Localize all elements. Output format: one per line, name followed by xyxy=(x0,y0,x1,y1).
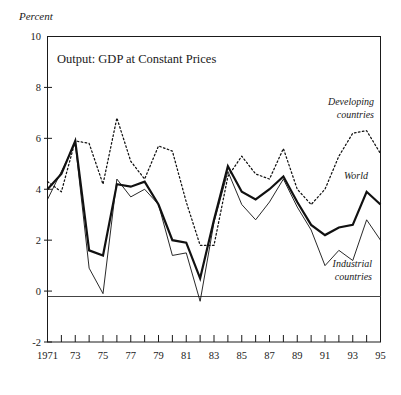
annotation-industrial-countries-line2: countries xyxy=(335,271,372,282)
annotation-world: World xyxy=(344,170,369,181)
plot-title: Output: GDP at Constant Prices xyxy=(57,52,216,66)
x-tick-label: 81 xyxy=(181,350,192,361)
x-tick-label: 1971 xyxy=(37,350,58,361)
x-tick-label: 91 xyxy=(320,350,331,361)
x-tick-label: 89 xyxy=(292,350,303,361)
y-tick-label: 0 xyxy=(36,286,41,297)
x-axis-tick-marks xyxy=(48,335,381,342)
gdp-line-chart: Percent 1086420-2 1971737577798183858789… xyxy=(0,0,401,395)
x-tick-label: 87 xyxy=(264,350,275,361)
x-tick-label: 85 xyxy=(237,350,248,361)
x-tick-label: 95 xyxy=(375,350,386,361)
x-tick-label: 77 xyxy=(126,350,137,361)
y-tick-label: 2 xyxy=(36,235,41,246)
y-tick-label: 4 xyxy=(36,184,42,195)
series-line-developing-countries xyxy=(48,118,381,245)
annotation-developing-countries-line2: countries xyxy=(337,109,374,120)
x-axis-tick-labels: 1971737577798183858789919395 xyxy=(37,350,386,361)
x-tick-label: 73 xyxy=(70,350,81,361)
x-tick-label: 83 xyxy=(209,350,220,361)
y-tick-label: 10 xyxy=(31,31,42,42)
x-tick-label: 93 xyxy=(348,350,359,361)
x-tick-label: 79 xyxy=(153,350,164,361)
series-line-world xyxy=(48,141,381,278)
chart-container: Percent 1086420-2 1971737577798183858789… xyxy=(0,0,401,395)
annotation-developing-countries-line1: Developing xyxy=(327,96,374,107)
y-tick-label: 8 xyxy=(36,82,41,93)
y-tick-label: -2 xyxy=(32,337,41,348)
y-axis-tick-labels: 1086420-2 xyxy=(31,31,42,348)
y-tick-label: 6 xyxy=(36,133,41,144)
x-tick-label: 75 xyxy=(98,350,109,361)
annotation-industrial-countries-line1: Industrial xyxy=(332,258,373,269)
y-axis-title: Percent xyxy=(18,10,54,22)
